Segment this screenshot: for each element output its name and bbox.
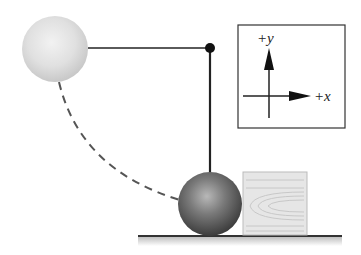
ground [138, 236, 342, 246]
initial-ball [22, 16, 88, 82]
swing-path-dashed [59, 82, 180, 200]
pendulum-diagram: +y +x [0, 0, 361, 255]
coordinate-axes-box: +y +x [238, 25, 345, 128]
final-ball [178, 172, 242, 236]
wooden-block [243, 172, 307, 235]
x-axis-label: +x [314, 88, 331, 104]
y-axis-label: +y [257, 30, 274, 46]
pivot-point [205, 43, 215, 53]
